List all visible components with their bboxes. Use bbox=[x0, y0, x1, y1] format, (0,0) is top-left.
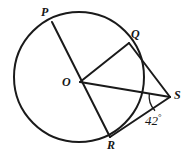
geometry-figure: P Q O R S 42° bbox=[0, 0, 195, 159]
segment-OQ bbox=[80, 43, 129, 82]
segment-QS bbox=[129, 43, 170, 97]
point-label-O: O bbox=[62, 76, 71, 88]
point-label-S: S bbox=[174, 89, 181, 101]
geometry-canvas bbox=[0, 0, 195, 159]
point-label-R: R bbox=[107, 139, 115, 151]
point-label-Q: Q bbox=[131, 28, 140, 40]
point-label-P: P bbox=[41, 6, 48, 18]
angle-value: 42 bbox=[145, 113, 158, 128]
degree-symbol: ° bbox=[158, 112, 162, 122]
segment-PR bbox=[52, 22, 110, 137]
segment-OS bbox=[80, 82, 170, 97]
angle-measure-label: 42° bbox=[145, 113, 162, 127]
